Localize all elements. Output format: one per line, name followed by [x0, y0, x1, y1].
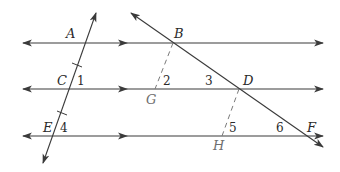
point-label-g: G [146, 92, 156, 107]
angle-label-6: 6 [276, 121, 284, 135]
angle-label-5: 5 [229, 121, 237, 135]
point-label-f: F [306, 120, 317, 135]
point-label-d: D [242, 73, 254, 88]
congruence-tick-icon [57, 111, 67, 115]
angle-label-1: 1 [77, 74, 85, 88]
angle-label-2: 2 [163, 74, 171, 88]
geometry-diagram: A B C D E F G H 1 2 3 4 5 6 [0, 0, 340, 172]
point-label-b: B [173, 26, 184, 41]
angle-label-3: 3 [205, 74, 213, 88]
diagram-canvas: A B C D E F G H 1 2 3 4 5 6 [0, 0, 340, 172]
point-label-c: C [57, 73, 67, 88]
angle-label-4: 4 [60, 121, 68, 135]
transversal-bdf [131, 13, 323, 147]
point-label-a: A [65, 26, 75, 41]
point-label-e: E [42, 120, 53, 135]
point-label-h: H [212, 138, 225, 153]
